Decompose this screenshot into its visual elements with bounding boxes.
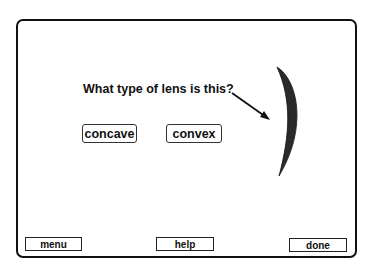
- concave-button[interactable]: concave: [82, 124, 137, 143]
- lens-icon: [277, 67, 297, 176]
- done-button[interactable]: done: [289, 238, 347, 252]
- arrow-icon: [232, 93, 270, 120]
- convex-button[interactable]: convex: [166, 124, 222, 143]
- menu-button[interactable]: menu: [25, 237, 82, 251]
- help-button[interactable]: help: [156, 237, 214, 251]
